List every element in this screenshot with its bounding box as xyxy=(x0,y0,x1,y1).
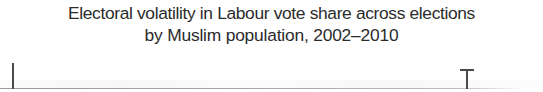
data-marker-t-bar xyxy=(460,69,474,89)
axis-tick-left xyxy=(12,63,14,89)
chart-title-line-1: Electoral volatility in Labour vote shar… xyxy=(0,2,543,24)
axis-baseline xyxy=(0,88,522,89)
plot-area xyxy=(0,50,543,92)
chart-subtitle-line-2: by Muslim population, 2002–2010 xyxy=(0,24,543,46)
chart-figure: Electoral volatility in Labour vote shar… xyxy=(0,0,543,92)
marker-stem xyxy=(466,69,468,89)
chart-title: Electoral volatility in Labour vote shar… xyxy=(0,0,543,46)
